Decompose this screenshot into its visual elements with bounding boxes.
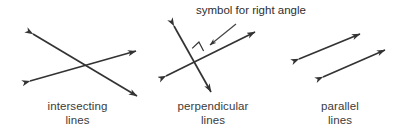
right-angle-annotation-label: symbol for right angle (196, 4, 306, 17)
caption-intersecting-lines: intersecting lines (10, 100, 145, 127)
parallel-line-upper (299, 34, 360, 59)
caption-perpendicular-line1: perpendicular (150, 100, 276, 114)
caption-parallel-line1: parallel (285, 100, 395, 114)
geometry-lines-diagram: symbol for right angle intersecting line… (0, 0, 407, 136)
intersecting-line-b (30, 51, 136, 81)
caption-intersecting-line2: lines (10, 114, 145, 128)
caption-parallel-lines: parallel lines (285, 100, 395, 127)
caption-perpendicular-line2: lines (150, 114, 276, 128)
caption-perpendicular-lines: perpendicular lines (150, 100, 276, 127)
right-angle-square-icon (192, 42, 203, 51)
caption-intersecting-line1: intersecting (10, 100, 145, 114)
panel-perpendicular-lines (166, 24, 255, 92)
right-angle-leader-line (210, 24, 236, 45)
caption-parallel-line2: lines (285, 114, 395, 128)
panel-parallel-lines (299, 34, 385, 77)
perpendicular-line-steep (174, 26, 211, 92)
perpendicular-line-shallow (166, 32, 255, 76)
parallel-line-lower (323, 50, 385, 77)
panel-intersecting-lines (30, 34, 137, 96)
